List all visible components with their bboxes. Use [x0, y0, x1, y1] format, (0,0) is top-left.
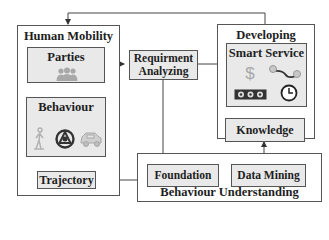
ticket-icon — [234, 89, 267, 100]
behaviour-box[interactable]: Behaviour — [26, 97, 106, 157]
route-pins-icon — [268, 64, 302, 84]
requirement-line1: Requirment — [130, 52, 197, 64]
walking-person-icon — [33, 127, 45, 151]
knowledge-box[interactable]: Knowledge — [225, 118, 305, 142]
steering-wheel-icon — [55, 129, 75, 149]
foundation-label: Foundation — [148, 169, 218, 181]
data-mining-box[interactable]: Data Mining — [231, 164, 306, 187]
car-icon — [79, 130, 103, 148]
requirement-analyzing-box[interactable]: Requirment Analyzing — [129, 50, 198, 80]
svg-text:$: $ — [245, 64, 255, 82]
human-mobility-title: Human Mobility — [18, 29, 119, 44]
trajectory-label: Trajectory — [38, 173, 95, 188]
people-icon — [55, 67, 79, 81]
knowledge-label: Knowledge — [226, 123, 304, 138]
requirement-line2: Analyzing — [130, 65, 197, 77]
clock-icon — [280, 84, 298, 102]
trajectory-box[interactable]: Trajectory — [37, 171, 96, 189]
smart-service-label: Smart Service — [227, 46, 306, 61]
foundation-box[interactable]: Foundation — [147, 164, 219, 187]
developing-title: Developing — [218, 28, 314, 43]
behaviour-label: Behaviour — [27, 100, 105, 115]
parties-label: Parties — [28, 50, 104, 65]
data-mining-label: Data Mining — [232, 169, 305, 181]
parties-box[interactable]: Parties — [27, 47, 105, 83]
smart-service-box[interactable]: Smart Service $ — [226, 43, 307, 107]
behaviour-understanding-title: Behaviour Understanding — [138, 185, 321, 200]
dollar-icon: $ — [243, 64, 257, 82]
